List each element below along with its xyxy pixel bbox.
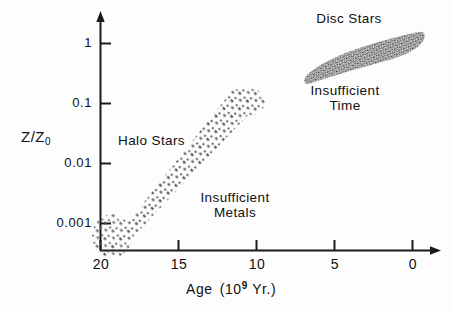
figure-container: 1 0.1 0.01 0.001 20 15 10 5 0 Z/Z0 Age(1… xyxy=(0,0,453,312)
annotation-insufficient-time: Insufficient Time xyxy=(290,83,400,113)
x-axis-unit-exponent: 9 xyxy=(242,280,248,291)
x-axis-arrow xyxy=(430,246,441,254)
y-tick-label-0.001: 0.001 xyxy=(28,215,92,230)
x-tick-label-15: 15 xyxy=(158,256,200,272)
annotation-insufficient-metals: Insufficient Metals xyxy=(176,190,294,220)
y-axis-title-subscript: 0 xyxy=(45,136,51,147)
x-axis-title-main: Age xyxy=(186,281,213,297)
x-tick-label-0: 0 xyxy=(392,256,434,272)
x-tick-label-20: 20 xyxy=(80,256,122,272)
annotation-halo-stars: Halo Stars xyxy=(118,133,185,148)
x-axis-unit-open: (10 xyxy=(220,281,242,297)
annotation-disc-stars: Disc Stars xyxy=(294,11,404,26)
y-axis-title: Z/Z0 xyxy=(21,128,51,145)
y-tick-label-0.01: 0.01 xyxy=(36,155,92,170)
annotation-insufficient-metals-line2: Metals xyxy=(176,205,294,220)
annotation-insufficient-time-line1: Insufficient xyxy=(290,83,400,98)
y-tick-label-0.1: 0.1 xyxy=(42,95,92,110)
y-axis-title-main: Z/Z xyxy=(21,128,45,145)
x-axis-title: Age(109 Yr.) xyxy=(186,281,276,297)
x-tick-label-10: 10 xyxy=(236,256,278,272)
annotation-insufficient-time-line2: Time xyxy=(290,98,400,113)
annotation-insufficient-metals-line1: Insufficient xyxy=(176,190,294,205)
x-axis-unit-rest: Yr.) xyxy=(248,281,276,297)
halo-stars-band xyxy=(85,75,285,270)
x-tick-label-5: 5 xyxy=(314,256,356,272)
y-axis-arrow xyxy=(96,11,104,22)
y-tick-label-1: 1 xyxy=(42,35,92,50)
